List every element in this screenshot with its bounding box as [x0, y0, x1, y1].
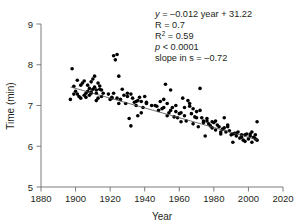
y-tick-label: 7 [28, 100, 33, 111]
scatter-point [117, 102, 121, 106]
scatter-point [214, 119, 218, 123]
scatter-point [79, 83, 83, 87]
x-tick-label: 1980 [203, 193, 224, 204]
scatter-point [169, 109, 173, 113]
scatter-point [139, 111, 143, 115]
y-tick-label: 6 [28, 141, 33, 152]
scatter-point [95, 88, 99, 92]
scatter-point [222, 116, 226, 120]
scatter-point [86, 83, 90, 87]
scatter-point [131, 96, 135, 100]
scatter-point [162, 106, 166, 110]
y-tick-label: 5 [28, 182, 33, 193]
x-tick-label: 1960 [169, 193, 190, 204]
x-tick-label: 1920 [100, 193, 121, 204]
annotation-p-value: p < 0.0001 [154, 42, 199, 52]
scatter-point [174, 110, 178, 114]
scatter-points-group [69, 53, 259, 144]
scatter-point [145, 100, 149, 104]
scatter-point [100, 88, 104, 92]
scatter-point [158, 100, 162, 104]
scatter-point [114, 58, 118, 62]
scatter-point [255, 138, 259, 142]
scatter-point [231, 140, 235, 144]
scatter-point [82, 94, 86, 98]
scatter-point [205, 117, 209, 121]
scatter-point [254, 133, 258, 137]
statistics-annotation: y = –0.012 year + 31.22 R = 0.7 R2 = 0.5… [154, 9, 252, 63]
scatter-point [250, 140, 254, 144]
scatter-point [222, 126, 226, 130]
scatter-point [183, 114, 187, 118]
scatter-point [115, 53, 119, 57]
x-axis-title: Year [152, 211, 173, 222]
scatter-point [126, 95, 130, 99]
annotation-r: R = 0.7 [155, 20, 185, 30]
scatter-point [127, 117, 131, 121]
regression-line [70, 87, 257, 140]
y-axis-ticks: 56789 [28, 19, 41, 193]
scatter-point [191, 107, 195, 111]
scatter-point [120, 87, 124, 91]
scatter-plot-figure: 56789 18801900192019401960198020002020 T… [0, 0, 298, 224]
scatter-point [174, 104, 178, 108]
scatter-point [181, 96, 185, 100]
scatter-point [243, 140, 247, 144]
scatter-point [98, 84, 102, 88]
scatter-point [72, 92, 76, 96]
scatter-point [96, 96, 100, 100]
scatter-point [138, 96, 142, 100]
scatter-point [250, 130, 254, 134]
scatter-point [162, 98, 166, 102]
scatter-point [202, 119, 206, 123]
scatter-point [255, 120, 259, 124]
scatter-point [195, 110, 199, 114]
scatter-point [200, 116, 204, 120]
scatter-point [129, 124, 133, 128]
scatter-point [143, 95, 147, 99]
y-tick-label: 8 [28, 59, 33, 70]
scatter-point [179, 111, 183, 115]
scatter-point [129, 92, 133, 96]
scatter-point [76, 78, 80, 82]
scatter-point [188, 105, 192, 109]
x-axis-ticks: 18801900192019401960198020002020 [30, 187, 293, 204]
scatter-point [190, 112, 194, 116]
scatter-point [82, 79, 86, 83]
scatter-point [122, 94, 126, 98]
scatter-point [203, 134, 207, 138]
scatter-point [198, 109, 202, 113]
y-axis-title: Time (min) [5, 82, 16, 129]
chart-canvas: 56789 18801900192019401960198020002020 T… [0, 0, 298, 224]
scatter-point [155, 105, 159, 109]
scatter-point [165, 102, 169, 106]
x-tick-label: 2020 [272, 193, 293, 204]
scatter-point [169, 88, 173, 92]
scatter-point [219, 130, 223, 134]
scatter-point [164, 83, 168, 87]
y-tick-label: 9 [28, 19, 33, 30]
scatter-point [179, 120, 183, 124]
scatter-point [79, 96, 83, 100]
scatter-point [198, 87, 202, 91]
scatter-point [107, 92, 111, 96]
scatter-point [136, 99, 140, 103]
x-tick-label: 1900 [65, 193, 86, 204]
x-tick-label: 1880 [30, 193, 51, 204]
scatter-point [93, 74, 97, 78]
scatter-point [126, 91, 130, 95]
scatter-point [195, 116, 199, 120]
scatter-point [117, 74, 121, 78]
scatter-point [226, 125, 230, 129]
annotation-equation: y = –0.012 year + 31.22 [154, 9, 252, 19]
scatter-point [69, 98, 73, 102]
scatter-point [139, 100, 143, 104]
x-tick-label: 1940 [134, 193, 155, 204]
annotation-slope: slope in s = –0.72 [155, 53, 227, 63]
scatter-point [136, 114, 140, 118]
scatter-point [150, 104, 154, 108]
scatter-point [112, 54, 116, 58]
scatter-point [217, 125, 221, 129]
scatter-point [101, 91, 105, 95]
annotation-r-squared: R2 = 0.59 [155, 30, 194, 41]
